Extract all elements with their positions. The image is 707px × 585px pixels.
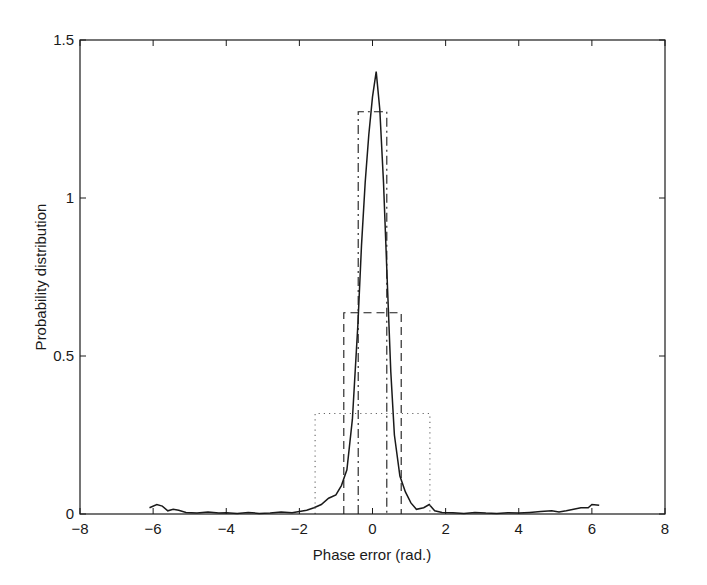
- y-tick-label: 1: [66, 189, 74, 206]
- series-dotted-line: [315, 414, 430, 515]
- y-axis-label: Probability distribution: [32, 204, 49, 351]
- y-tick-label: 0: [66, 505, 74, 522]
- x-tick-label: −4: [218, 520, 235, 537]
- x-tick-label: 4: [515, 520, 523, 537]
- y-tick-label: 1.5: [53, 31, 74, 48]
- x-tick-label: 2: [441, 520, 449, 537]
- x-tick-label: 6: [588, 520, 596, 537]
- x-tick-label: −2: [291, 520, 308, 537]
- plot-series: [150, 72, 600, 514]
- x-axis-label: Phase error (rad.): [313, 546, 431, 563]
- x-tick-label: 0: [368, 520, 376, 537]
- x-tick-label: −6: [145, 520, 162, 537]
- probability-distribution-chart: −8−6−4−202468 00.511.5 Phase error (rad.…: [0, 0, 707, 585]
- plot-frame: [80, 40, 665, 514]
- series-solid-line: [150, 72, 600, 514]
- x-tick-label: 8: [661, 520, 669, 537]
- y-axis-ticks: 00.511.5: [53, 31, 665, 522]
- x-tick-label: −8: [71, 520, 88, 537]
- y-tick-label: 0.5: [53, 347, 74, 364]
